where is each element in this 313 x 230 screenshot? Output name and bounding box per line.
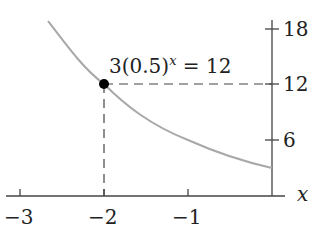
x-tick-label: −2 — [88, 205, 117, 229]
point-annotation: 3(0.5)x = 12 — [109, 53, 231, 78]
annotation-rest: = 12 — [176, 54, 231, 78]
x-axis-label: x — [297, 182, 308, 206]
highlight-point — [99, 79, 109, 89]
x-tick-label: −3 — [4, 205, 33, 229]
y-tick-label: 6 — [283, 128, 296, 152]
y-tick-label: 18 — [283, 17, 308, 41]
decay-curve — [48, 21, 272, 168]
annotation-base: 3(0.5) — [109, 54, 169, 78]
exponential-decay-chart: −3 −2 −1 18 12 6 x 3(0.5)x = 12 — [0, 0, 313, 230]
x-tick-label: −1 — [172, 205, 201, 229]
y-tick-label: 12 — [283, 72, 308, 96]
